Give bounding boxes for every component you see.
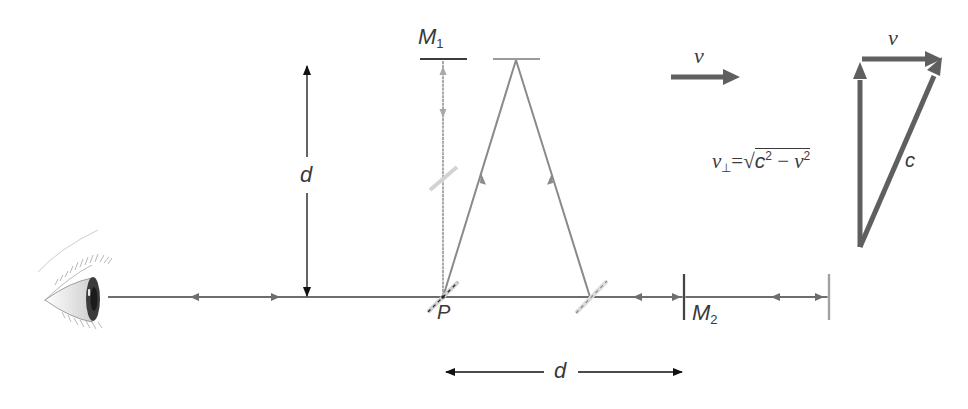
mirror-m2-subscript: 2	[710, 312, 717, 327]
eye-icon	[38, 230, 112, 329]
formula-c: c	[755, 149, 766, 172]
horizontal-d-label: d	[554, 360, 566, 382]
triangle-velocity-label: v	[888, 27, 898, 49]
hypotenuse-c-label: c	[905, 150, 915, 170]
formula-exp2: 2	[804, 149, 811, 163]
mirror-m1-subscript: 1	[436, 36, 443, 51]
formula-v: v	[712, 149, 721, 173]
formula-radicand: c2 − v2	[755, 148, 811, 172]
horizontal-beam	[108, 293, 828, 301]
mirror-m1-letter: M	[418, 24, 436, 49]
vertical-d-label: d	[300, 164, 312, 186]
velocity-triangle	[853, 51, 942, 247]
point-p-label: P	[437, 302, 450, 322]
formula-exp1: 2	[765, 149, 772, 163]
formula-perp-subscript: ⊥	[721, 161, 731, 175]
mirror-m2-letter: M	[692, 300, 710, 325]
interferometer-diagram: M1 d P M2 d v v c v⊥=√c2 − v2	[0, 0, 968, 409]
formula-minus: −	[772, 149, 794, 173]
velocity-arrow	[671, 69, 740, 85]
perpendicular-velocity-formula: v⊥=√c2 − v2	[712, 148, 810, 174]
velocity-label: v	[694, 45, 704, 67]
diagram-canvas	[0, 0, 968, 409]
mirror-m1-label: M1	[418, 26, 444, 50]
formula-equals: =	[731, 149, 743, 173]
formula-v2: v	[794, 149, 803, 173]
sqrt-icon: √	[743, 149, 755, 173]
diagonal-beams	[443, 60, 590, 297]
mirror-m2-label: M2	[692, 302, 718, 326]
